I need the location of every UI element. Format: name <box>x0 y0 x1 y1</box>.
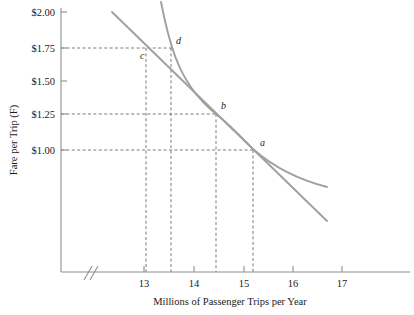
x-tick-label-15: 15 <box>239 278 250 289</box>
y-tick-label-125: $1.25 <box>31 109 55 120</box>
horizontal-guide-lines <box>61 48 254 150</box>
y-tick-label-200: $2.00 <box>31 7 55 18</box>
y-axis-title: Fare per Trip (F) <box>8 104 20 175</box>
x-tick-label-13: 13 <box>139 278 150 289</box>
tangent-line <box>112 12 327 221</box>
vertical-guide-lines <box>146 48 253 272</box>
point-label-b: b <box>221 100 226 111</box>
x-axis-title: Millions of Passenger Trips per Year <box>153 296 307 307</box>
x-tick-label-17: 17 <box>337 278 348 289</box>
x-tick-label-14: 14 <box>189 278 200 289</box>
point-label-a: a <box>260 137 265 148</box>
chart-plot-area: $2.00 $1.75 $1.50 $1.25 $1.00 13 14 15 1… <box>0 0 414 315</box>
demand-curve <box>161 2 327 187</box>
chart-figure: $2.00 $1.75 $1.50 $1.25 $1.00 13 14 15 1… <box>0 0 414 315</box>
point-label-d: d <box>176 35 182 46</box>
axis-break-icon <box>84 266 98 280</box>
y-tick-label-150: $1.50 <box>31 76 55 87</box>
y-tick-label-175: $1.75 <box>31 43 55 54</box>
y-axis-ticks <box>61 12 67 150</box>
x-axis-ticks <box>144 266 342 272</box>
point-label-c: c <box>140 50 145 61</box>
y-tick-label-100: $1.00 <box>31 145 55 156</box>
x-tick-label-16: 16 <box>288 278 299 289</box>
